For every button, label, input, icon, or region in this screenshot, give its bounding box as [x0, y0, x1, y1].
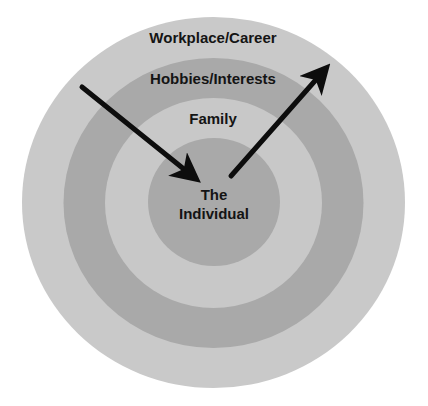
- label-hobbies-interests: Hobbies/Interests: [150, 70, 276, 87]
- label-workplace-career: Workplace/Career: [149, 29, 276, 46]
- concentric-diagram: Workplace/Career Hobbies/Interests Famil…: [0, 0, 428, 406]
- label-individual: Individual: [179, 205, 249, 222]
- label-the: The: [201, 186, 228, 203]
- label-family: Family: [189, 110, 237, 127]
